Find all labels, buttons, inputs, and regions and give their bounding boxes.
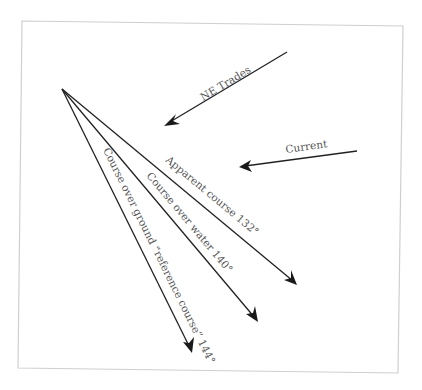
arrow-tip-icon [183,337,194,353]
current-arrow: Current [239,137,357,172]
arrow-tip-icon [284,270,297,285]
ne-trades-arrow: NE Trades [164,52,287,126]
apparent-course-vector: Apparent course 132° [62,89,297,285]
arrow-tip-icon [246,306,258,322]
arrow-left-icon [239,160,252,172]
current-label: Current [285,137,329,155]
current-line [245,151,357,166]
arrow-down-left-icon [164,114,180,126]
course-diagram: NE Trades Current Apparent course 132° C… [0,0,422,390]
ne-trades-label: NE Trades [198,63,253,103]
